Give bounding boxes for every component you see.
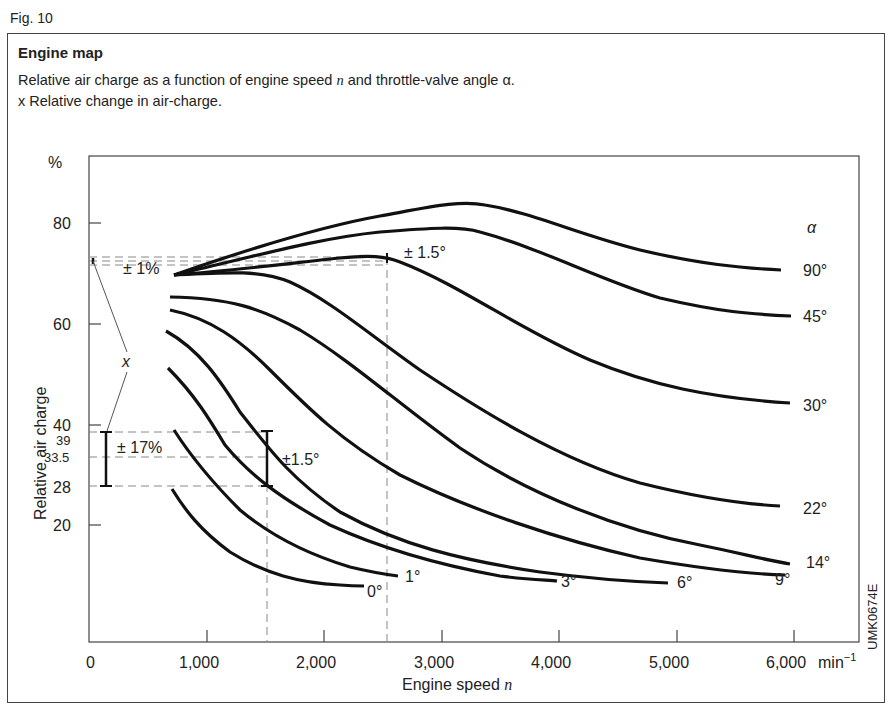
y-tick-40: 40 — [53, 417, 71, 434]
y-axis-ticks: % 80 60 40 20 39 33.5 28 — [44, 154, 101, 534]
y-tick-20: 20 — [53, 517, 71, 534]
engine-map-chart: % 80 60 40 20 39 33.5 28 Relative air ch… — [0, 0, 892, 714]
y-axis-label: Relative air charge — [32, 387, 49, 521]
curve-90 — [174, 203, 781, 275]
x-tick-1000: 1,000 — [179, 654, 219, 671]
label-0: 0° — [367, 583, 382, 600]
curve-9 — [170, 310, 785, 575]
annotation-pm15-top: ± 1.5° — [404, 244, 446, 261]
annotation-x: x — [121, 353, 131, 370]
alpha-legend-title: α — [807, 219, 817, 236]
label-6: 6° — [677, 574, 692, 591]
x-tick-0: 0 — [86, 654, 95, 671]
x-tick-5000: 5,000 — [649, 654, 689, 671]
y-tick-39: 39 — [56, 433, 70, 448]
label-14: 14° — [806, 554, 830, 571]
x-tick-6000: 6,000 — [766, 654, 806, 671]
label-1: 1° — [405, 568, 420, 585]
label-9: 9° — [775, 571, 790, 588]
annotation-pm15-bottom: ±1.5° — [282, 451, 319, 468]
x-unit: min−1 — [818, 651, 856, 671]
annotation-pm17: ± 17% — [117, 439, 162, 456]
label-3: 3° — [561, 573, 576, 590]
x-axis-label: Engine speed n — [402, 676, 512, 693]
x-tick-3000: 3,000 — [414, 654, 454, 671]
y-tick-60: 60 — [53, 316, 71, 333]
x-axis-ticks: 0 1,000 2,000 3,000 4,000 5,000 6,000 mi… — [86, 630, 856, 671]
curve-30 — [174, 256, 790, 403]
y-tick-28: 28 — [53, 479, 71, 496]
y-tick-80: 80 — [53, 215, 71, 232]
label-22: 22° — [803, 500, 827, 517]
figure-code: UMK0674E — [865, 583, 880, 650]
y-unit: % — [48, 154, 62, 171]
label-45: 45° — [803, 308, 827, 325]
annotation-pm1: ± 1% — [123, 260, 159, 277]
x-tick-2000: 2,000 — [296, 654, 336, 671]
x-tick-4000: 4,000 — [531, 654, 571, 671]
label-90: 90° — [803, 262, 827, 279]
curve-0 — [172, 489, 364, 586]
label-30: 30° — [803, 397, 827, 414]
